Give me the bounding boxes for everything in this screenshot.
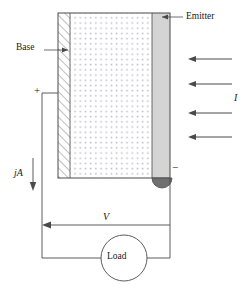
incident-flux-label: I [234,93,237,103]
light-arrow-2 [188,81,232,87]
negative-terminal-label: − [172,162,178,173]
current-density-arrow [30,158,36,191]
base-label: Base [16,43,34,53]
base-layer [58,13,70,178]
light-arrow-4 [188,134,232,140]
emitter-layer [152,13,170,178]
device-body [58,13,170,178]
load-label: Load [107,252,127,262]
negative-contact [152,178,172,188]
bulk-region [70,13,152,178]
contact-semicircle [152,178,172,188]
voltage-arrow [42,222,170,229]
incident-light-arrows [188,56,232,140]
emitter-label: Emitter [186,12,215,22]
light-arrow-3 [188,110,232,116]
voltage-label: V [103,212,109,222]
current-density-label: jA [14,168,23,178]
device-schematic-figure: Emitter Base I jA V Load + − [0,0,249,297]
light-arrow-1 [188,56,232,62]
positive-terminal-label: + [34,85,40,96]
